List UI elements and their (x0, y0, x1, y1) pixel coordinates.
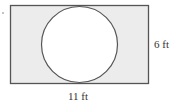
marker-dot (2, 12, 4, 14)
height-label: 6 ft (154, 38, 169, 50)
width-label: 11 ft (68, 90, 88, 102)
diagram: 6 ft 11 ft (0, 0, 172, 105)
inscribed-circle (42, 7, 118, 83)
